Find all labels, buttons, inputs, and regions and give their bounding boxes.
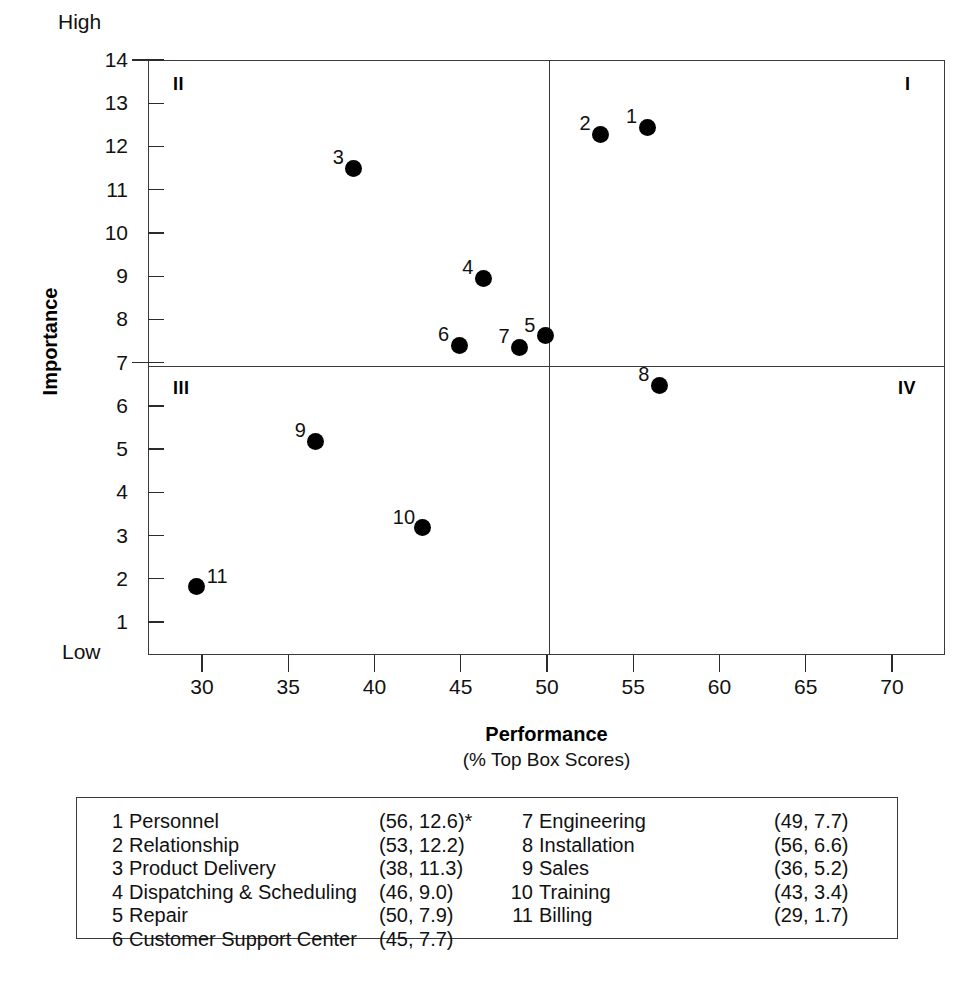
y-tick-6 xyxy=(148,405,164,406)
data-point-1[interactable] xyxy=(639,119,656,136)
data-point-3[interactable] xyxy=(345,160,362,177)
y-tick-label-5: 5 xyxy=(88,438,128,459)
data-point-label-10: 10 xyxy=(393,506,415,529)
data-point-label-11: 11 xyxy=(207,565,228,588)
y-tick-14 xyxy=(132,59,164,60)
legend-item-8: 8Installation(56, 6.6) xyxy=(507,834,897,858)
legend-item-coordinates: (45, 7.7) xyxy=(379,928,497,952)
legend-item-name: Training xyxy=(539,881,774,905)
y-tick-3 xyxy=(148,535,164,536)
data-point-label-4: 4 xyxy=(462,256,473,279)
data-point-label-2: 2 xyxy=(579,112,590,135)
legend-item-number: 10 xyxy=(507,881,539,905)
legend-item-name: Engineering xyxy=(539,810,774,834)
x-tick-label-50: 50 xyxy=(517,676,577,697)
legend-item-number: 8 xyxy=(507,834,539,858)
y-tick-label-1: 1 xyxy=(88,611,128,632)
y-tick-2 xyxy=(148,578,164,579)
y-tick-label-8: 8 xyxy=(88,308,128,329)
legend-item-9: 9Sales(36, 5.2) xyxy=(507,857,897,881)
legend-item-number: 4 xyxy=(97,881,129,905)
y-tick-10 xyxy=(148,232,164,233)
legend-column-right: 7Engineering(49, 7.7)8Installation(56, 6… xyxy=(497,810,897,938)
x-tick-label-45: 45 xyxy=(431,676,491,697)
x-tick-label-30: 30 xyxy=(172,676,232,697)
y-axis-title: Importance xyxy=(39,262,62,422)
legend-item-number: 3 xyxy=(97,857,129,881)
x-tick-label-35: 35 xyxy=(258,676,318,697)
y-tick-label-11: 11 xyxy=(88,179,128,200)
y-tick-label-9: 9 xyxy=(88,265,128,286)
plot-area xyxy=(148,60,945,655)
data-point-9[interactable] xyxy=(307,433,324,450)
y-tick-label-4: 4 xyxy=(88,481,128,502)
x-tick-label-60: 60 xyxy=(690,676,750,697)
y-tick-7 xyxy=(132,362,164,363)
quadrant-label-i: I xyxy=(905,74,911,95)
y-tick-12 xyxy=(148,146,164,147)
y-tick-label-7: 7 xyxy=(88,352,128,373)
data-point-6[interactable] xyxy=(451,337,468,354)
data-point-2[interactable] xyxy=(592,126,609,143)
legend-item-coordinates: (50, 7.9) xyxy=(379,904,497,928)
x-tick-30 xyxy=(201,655,202,672)
y-tick-5 xyxy=(148,448,164,449)
y-tick-label-3: 3 xyxy=(88,525,128,546)
x-tick-65 xyxy=(805,655,806,672)
data-point-label-8: 8 xyxy=(638,363,649,386)
data-point-7[interactable] xyxy=(511,339,528,356)
legend-item-number: 5 xyxy=(97,904,129,928)
legend-item-name: Relationship xyxy=(129,834,379,858)
legend-item-number: 7 xyxy=(507,810,539,834)
y-tick-11 xyxy=(148,189,164,190)
quadrant-divider-vertical xyxy=(549,60,550,655)
legend-item-name: Personnel xyxy=(129,810,379,834)
data-point-label-5: 5 xyxy=(524,314,535,337)
y-tick-4 xyxy=(148,492,164,493)
data-point-label-3: 3 xyxy=(333,146,344,169)
y-tick-13 xyxy=(148,103,164,104)
x-tick-label-40: 40 xyxy=(345,676,405,697)
legend-item-coordinates: (56, 12.6)* xyxy=(379,810,497,834)
legend-item-number: 6 xyxy=(97,928,129,952)
legend-item-coordinates: (53, 12.2) xyxy=(379,834,497,858)
data-point-label-1: 1 xyxy=(626,105,637,128)
legend-item-1: 1Personnel(56, 12.6)* xyxy=(97,810,497,834)
data-point-label-7: 7 xyxy=(498,325,509,348)
data-point-4[interactable] xyxy=(475,270,492,287)
legend-item-11: 11Billing(29, 1.7) xyxy=(507,904,897,928)
x-tick-45 xyxy=(460,655,461,672)
y-tick-label-6: 6 xyxy=(88,395,128,416)
x-tick-40 xyxy=(374,655,375,672)
data-point-label-6: 6 xyxy=(438,323,449,346)
legend-item-5: 5Repair(50, 7.9) xyxy=(97,904,497,928)
y-tick-1 xyxy=(148,621,164,622)
chart-page: High Low Importance 1234567891011121314 … xyxy=(0,0,973,1000)
y-tick-label-14: 14 xyxy=(88,49,128,70)
x-tick-35 xyxy=(288,655,289,672)
x-tick-60 xyxy=(719,655,720,672)
legend-item-name: Sales xyxy=(539,857,774,881)
data-point-5[interactable] xyxy=(537,327,554,344)
legend-item-coordinates: (29, 1.7) xyxy=(774,904,892,928)
quadrant-label-iii: III xyxy=(173,378,190,399)
legend-item-name: Billing xyxy=(539,904,774,928)
legend-item-number: 1 xyxy=(97,810,129,834)
y-axis-low-label: Low xyxy=(62,640,101,664)
legend-item-coordinates: (56, 6.6) xyxy=(774,834,892,858)
data-point-8[interactable] xyxy=(651,377,668,394)
legend-item-10: 10Training(43, 3.4) xyxy=(507,881,897,905)
legend-item-name: Product Delivery xyxy=(129,857,379,881)
y-tick-9 xyxy=(148,276,164,277)
x-tick-50 xyxy=(546,655,547,672)
quadrant-label-ii: II xyxy=(173,74,184,95)
legend-item-6: 6Customer Support Center(45, 7.7) xyxy=(97,928,497,952)
legend-item-number: 9 xyxy=(507,857,539,881)
legend-item-number: 2 xyxy=(97,834,129,858)
y-tick-label-10: 10 xyxy=(88,222,128,243)
legend-item-coordinates: (49, 7.7) xyxy=(774,810,892,834)
y-axis-high-label: High xyxy=(58,10,101,34)
legend-item-name: Dispatching & Scheduling xyxy=(129,881,379,905)
legend-box: 1Personnel(56, 12.6)*2Relationship(53, 1… xyxy=(76,797,898,939)
x-tick-label-70: 70 xyxy=(862,676,922,697)
